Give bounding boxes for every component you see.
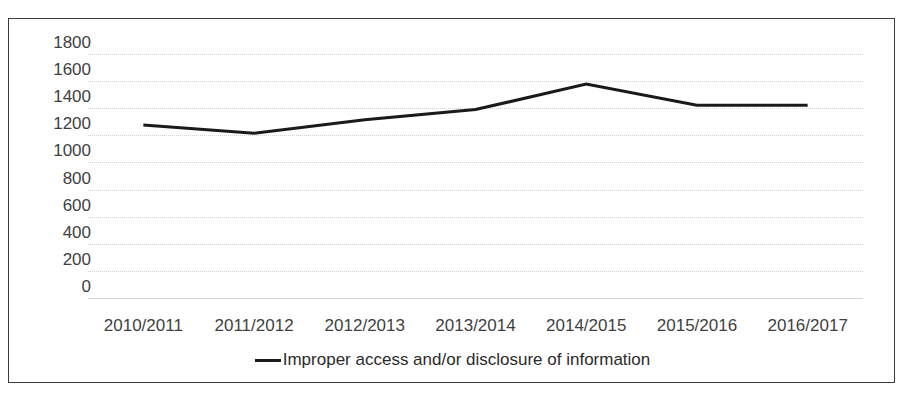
y-axis-tick-1400: 1400 <box>19 88 91 105</box>
y-axis-tick-1200: 1200 <box>19 115 91 132</box>
x-axis-tick-2013-2014: 2013/2014 <box>420 316 531 342</box>
series-line-improper-access <box>143 84 807 133</box>
legend-label-improper-access: Improper access and/or disclosure of inf… <box>283 350 651 370</box>
chart-legend: Improper access and/or disclosure of inf… <box>9 350 896 370</box>
x-axis-tick-2010-2011: 2010/2011 <box>88 316 199 342</box>
chart-container: 020040060080010001200140016001800 2010/2… <box>8 18 895 383</box>
y-axis-tick-400: 400 <box>19 223 91 240</box>
y-axis-tick-1000: 1000 <box>19 142 91 159</box>
y-axis-tick-1800: 1800 <box>19 34 91 51</box>
y-axis-tick-200: 200 <box>19 250 91 267</box>
x-axis-tick-2014-2015: 2014/2015 <box>531 316 642 342</box>
chart-plot-wrapper: 020040060080010001200140016001800 2010/2… <box>9 19 896 384</box>
y-axis-tick-1600: 1600 <box>19 61 91 78</box>
series-line-chart <box>88 54 863 298</box>
y-axis-tick-600: 600 <box>19 196 91 213</box>
gridline-0 <box>88 298 863 299</box>
y-axis-tick-0: 0 <box>19 278 91 295</box>
y-axis-tick-labels: 020040060080010001200140016001800 <box>19 42 91 286</box>
x-axis-tick-2016-2017: 2016/2017 <box>752 316 863 342</box>
x-axis-tick-labels: 2010/20112011/20122012/20132013/20142014… <box>88 316 863 342</box>
x-axis-tick-2012-2013: 2012/2013 <box>309 316 420 342</box>
legend-line-marker-icon <box>255 359 281 362</box>
x-axis-tick-2011-2012: 2011/2012 <box>199 316 310 342</box>
x-axis-tick-2015-2016: 2015/2016 <box>642 316 753 342</box>
y-axis-tick-800: 800 <box>19 169 91 186</box>
plot-area <box>88 54 863 298</box>
